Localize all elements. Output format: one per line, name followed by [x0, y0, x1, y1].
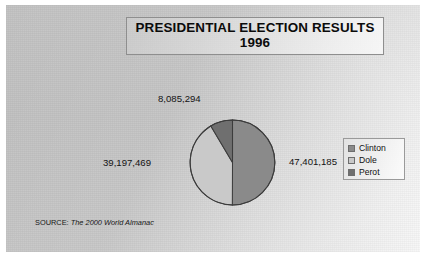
legend-label-perot: Perot — [359, 167, 380, 177]
source-prefix: SOURCE: — [35, 218, 69, 227]
legend-swatch-dole — [348, 157, 355, 164]
source-title: The 2000 World Almanac — [71, 218, 154, 227]
pie-slice-clinton — [232, 120, 274, 205]
legend-item-perot: Perot — [348, 166, 404, 178]
legend-swatch-perot — [348, 169, 355, 176]
legend-label-dole: Dole — [359, 155, 377, 165]
pie-label-dole: 39,197,469 — [103, 157, 151, 168]
chart-legend: Clinton Dole Perot — [343, 138, 405, 180]
legend-swatch-clinton — [348, 145, 355, 152]
pie-label-perot: 8,085,294 — [158, 93, 201, 104]
source-note: SOURCE: The 2000 World Almanac — [35, 218, 154, 227]
pie-chart-svg — [186, 116, 279, 209]
pie-chart — [186, 116, 279, 209]
legend-item-dole: Dole — [348, 154, 404, 166]
page-panel: PRESIDENTIAL ELECTION RESULTS 1996 8,085… — [6, 5, 420, 252]
legend-item-clinton: Clinton — [348, 142, 404, 154]
legend-label-clinton: Clinton — [359, 143, 386, 153]
chart-title: PRESIDENTIAL ELECTION RESULTS 1996 — [136, 21, 375, 50]
chart-title-box: PRESIDENTIAL ELECTION RESULTS 1996 — [126, 17, 384, 55]
pie-label-clinton: 47,401,185 — [289, 156, 337, 167]
figure-root: PRESIDENTIAL ELECTION RESULTS 1996 8,085… — [0, 0, 426, 256]
